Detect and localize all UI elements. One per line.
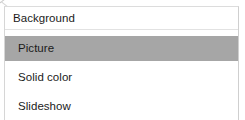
- dropdown-header: Background: [5, 7, 238, 30]
- background-options-list: Picture Solid color Slideshow: [5, 31, 238, 120]
- screen: Background Picture Solid color Slideshow: [0, 0, 245, 120]
- list-item-slideshow[interactable]: Slideshow: [5, 94, 238, 119]
- list-item-label: Solid color: [18, 70, 72, 85]
- list-item-label: Slideshow: [18, 99, 71, 114]
- cursor-arrow-stroke-left: [0, 0, 11, 5]
- list-item-label: Picture: [18, 41, 54, 56]
- background-dropdown-panel: Background Picture Solid color Slideshow: [4, 6, 239, 120]
- dropdown-header-label: Background: [13, 11, 75, 25]
- list-item-solid-color[interactable]: Solid color: [5, 65, 238, 90]
- list-item-picture[interactable]: Picture: [5, 36, 238, 61]
